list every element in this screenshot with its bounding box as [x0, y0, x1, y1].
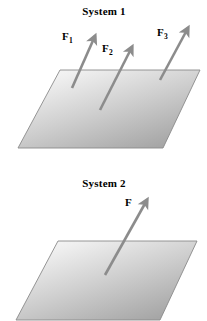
system-1-group: System 1 F1 F2	[0, 0, 207, 160]
system-2-canvas	[0, 160, 207, 321]
plane-surface-system-2	[16, 241, 197, 320]
force-label-f-base: F	[125, 196, 132, 208]
force-label-f3-base: F	[157, 26, 164, 38]
force-label-f2: F2	[102, 43, 113, 56]
force-label-f1-subscript: 1	[69, 36, 73, 45]
force-label-f: F	[125, 197, 132, 210]
force-label-f1: F1	[62, 31, 73, 44]
force-label-f3: F3	[157, 27, 168, 40]
force-label-f1-base: F	[62, 30, 69, 42]
force-label-f2-subscript: 2	[109, 48, 113, 57]
plane-surface-system-1	[18, 70, 200, 148]
system-1-canvas	[0, 0, 207, 160]
physics-figure: System 1 F1 F2	[0, 0, 207, 321]
force-label-f3-subscript: 3	[164, 32, 168, 41]
system-2-group: System 2 F	[0, 160, 207, 321]
force-label-f2-base: F	[102, 42, 109, 54]
